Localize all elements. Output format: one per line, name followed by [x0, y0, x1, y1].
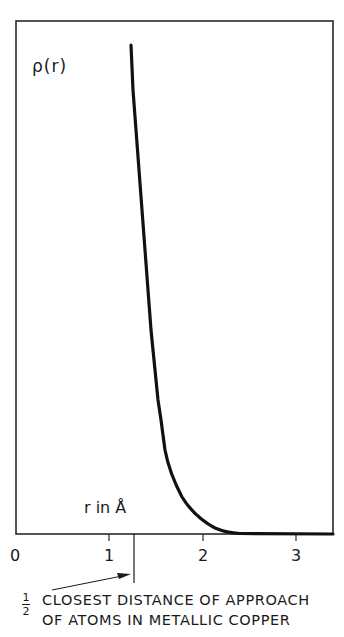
- chart-canvas: [0, 0, 344, 637]
- x-tick-label-1: 1: [104, 546, 114, 565]
- arrow-head-icon: [117, 573, 131, 579]
- x-tick-label-2: 2: [198, 546, 208, 565]
- annotation-line-2: OF ATOMS IN METALLIC COPPER: [42, 612, 290, 628]
- fraction-denominator: 2: [22, 606, 30, 617]
- density-curve: [131, 45, 333, 534]
- annotation-line-1: CLOSEST DISTANCE OF APPROACH: [42, 592, 310, 608]
- annotation-arrow: [52, 575, 127, 590]
- x-tick-label-3: 3: [291, 546, 301, 565]
- y-axis-label: ρ(r): [32, 56, 67, 76]
- x-axis-label: r in Å: [84, 498, 126, 517]
- plot-frame: [16, 21, 333, 534]
- fraction-half: 1 2: [22, 592, 30, 617]
- x-tick-label-0: 0: [10, 546, 20, 565]
- fraction-numerator: 1: [22, 592, 30, 603]
